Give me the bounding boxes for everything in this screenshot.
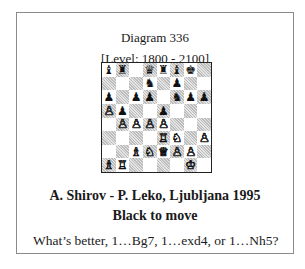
- white-rook-icon: ♖: [158, 132, 169, 144]
- white-pawn-icon: ♙: [103, 105, 114, 117]
- square-h4: [197, 118, 211, 132]
- square-c5: [129, 104, 143, 118]
- square-d2: ♘: [143, 145, 157, 159]
- white-knight-icon: ♘: [172, 132, 183, 144]
- white-pawn-icon: ♙: [158, 118, 169, 130]
- square-c4: ♙: [129, 118, 143, 132]
- square-d6: ♟: [143, 90, 157, 104]
- chess-board: ♝♜♛♜♝♚♞♟♟♟♟♞♟♟♙♟♟♙♙♙♙♖♘♙♗♘♕♙♙♗♖♔: [101, 62, 212, 173]
- square-a8: ♝: [102, 63, 116, 77]
- square-a5: ♙: [102, 104, 116, 118]
- square-e2: ♕: [157, 145, 171, 159]
- square-f8: ♝: [170, 63, 184, 77]
- white-pawn-icon: ♙: [117, 118, 128, 130]
- square-g1: ♔: [184, 158, 198, 172]
- square-b1: ♖: [116, 158, 130, 172]
- square-c3: [129, 131, 143, 145]
- square-b5: ♟: [116, 104, 130, 118]
- square-e6: [157, 90, 171, 104]
- square-b8: ♜: [116, 63, 130, 77]
- square-d4: ♙: [143, 118, 157, 132]
- square-g3: [184, 131, 198, 145]
- white-king-icon: ♔: [185, 159, 196, 171]
- white-pawn-icon: ♙: [199, 132, 210, 144]
- white-bishop-icon: ♗: [103, 159, 114, 171]
- square-a4: [102, 118, 116, 132]
- black-rook-icon: ♜: [158, 64, 169, 76]
- square-f6: ♞: [170, 90, 184, 104]
- square-f3: ♘: [170, 131, 184, 145]
- square-e1: [157, 158, 171, 172]
- black-pawn-icon: ♟: [144, 91, 155, 103]
- square-f2: ♙: [170, 145, 184, 159]
- square-f5: [170, 104, 184, 118]
- square-a1: ♗: [102, 158, 116, 172]
- black-rook-icon: ♜: [117, 64, 128, 76]
- square-d1: [143, 158, 157, 172]
- square-a2: [102, 145, 116, 159]
- square-a3: [102, 131, 116, 145]
- square-c8: [129, 63, 143, 77]
- black-pawn-icon: ♟: [158, 105, 169, 117]
- square-g4: [184, 118, 198, 132]
- white-bishop-icon: ♗: [131, 146, 142, 158]
- square-h2: [197, 145, 211, 159]
- black-pawn-icon: ♟: [199, 91, 210, 103]
- side-to-move: Black to move: [17, 208, 293, 224]
- square-e7: [157, 77, 171, 91]
- square-b2: [116, 145, 130, 159]
- square-g8: ♚: [184, 63, 198, 77]
- square-e5: ♟: [157, 104, 171, 118]
- black-pawn-icon: ♟: [172, 77, 183, 89]
- square-c2: ♗: [129, 145, 143, 159]
- square-c6: ♟: [129, 90, 143, 104]
- square-a7: [102, 77, 116, 91]
- black-pawn-icon: ♟: [103, 91, 114, 103]
- square-d5: [143, 104, 157, 118]
- square-b6: [116, 90, 130, 104]
- square-b3: [116, 131, 130, 145]
- white-rook-icon: ♖: [117, 159, 128, 171]
- square-h5: [197, 104, 211, 118]
- black-knight-icon: ♞: [172, 91, 183, 103]
- diagram-title: Diagram 336: [17, 30, 293, 46]
- white-pawn-icon: ♙: [172, 146, 183, 158]
- black-bishop-icon: ♝: [172, 64, 183, 76]
- square-g5: [184, 104, 198, 118]
- white-knight-icon: ♘: [144, 146, 155, 158]
- white-pawn-icon: ♙: [144, 118, 155, 130]
- square-h3: ♙: [197, 131, 211, 145]
- square-h8: [197, 63, 211, 77]
- square-f4: [170, 118, 184, 132]
- white-pawn-icon: ♙: [185, 146, 196, 158]
- black-pawn-icon: ♟: [185, 91, 196, 103]
- square-a6: ♟: [102, 90, 116, 104]
- black-pawn-icon: ♟: [117, 105, 128, 117]
- square-g7: [184, 77, 198, 91]
- square-e4: ♙: [157, 118, 171, 132]
- white-pawn-icon: ♙: [131, 118, 142, 130]
- black-bishop-icon: ♝: [103, 64, 114, 76]
- square-g2: ♙: [184, 145, 198, 159]
- white-queen-icon: ♕: [158, 146, 169, 158]
- black-pawn-icon: ♟: [131, 91, 142, 103]
- square-f7: ♟: [170, 77, 184, 91]
- square-g6: ♟: [184, 90, 198, 104]
- square-d8: ♛: [143, 63, 157, 77]
- black-king-icon: ♚: [185, 64, 196, 76]
- square-c7: [129, 77, 143, 91]
- black-knight-icon: ♞: [144, 77, 155, 89]
- diagram-frame: Diagram 336 [Level: 1800 - 2100] ♝♜♛♜♝♚♞…: [16, 12, 294, 254]
- square-b7: [116, 77, 130, 91]
- square-f1: [170, 158, 184, 172]
- square-h1: [197, 158, 211, 172]
- square-b4: ♙: [116, 118, 130, 132]
- square-d3: [143, 131, 157, 145]
- question-text: What’s better, 1…Bg7, 1…exd4, or 1…Nh5?: [33, 233, 278, 249]
- square-d7: ♞: [143, 77, 157, 91]
- game-info: A. Shirov - P. Leko, Ljubljana 1995: [17, 188, 293, 204]
- square-e8: ♜: [157, 63, 171, 77]
- square-h7: [197, 77, 211, 91]
- square-e3: ♖: [157, 131, 171, 145]
- black-queen-icon: ♛: [144, 64, 155, 76]
